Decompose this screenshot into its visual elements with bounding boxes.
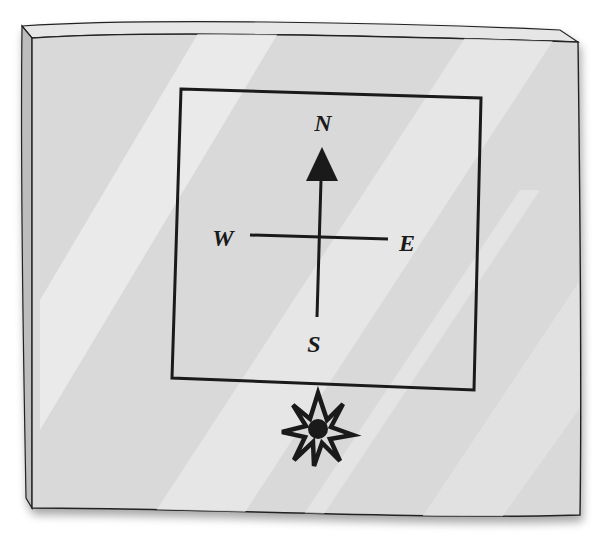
compass-panel-drawing: N S E W: [0, 0, 614, 550]
west-label: W: [212, 225, 235, 251]
illustration: N S E W: [0, 0, 614, 550]
north-label: N: [313, 110, 333, 136]
south-label: S: [307, 331, 320, 357]
east-label: E: [398, 230, 415, 256]
